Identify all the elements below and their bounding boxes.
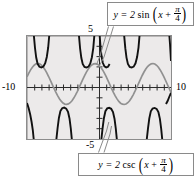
equation-sine-fraction: π 4 xyxy=(174,5,181,23)
x-axis-max-label: 10 xyxy=(176,82,186,92)
y-axis-max-label: 5 xyxy=(88,24,93,34)
x-axis-min-label: -10 xyxy=(2,82,15,92)
callout-sine-equation: y = 2 sin ( x + π 4 ) xyxy=(107,2,194,26)
plot-vector-layer xyxy=(0,0,196,178)
callout-cosecant-equation: y = 2 csc ( x + π 4 ) xyxy=(78,153,194,176)
equation-cosecant-operator: + xyxy=(151,159,157,170)
equation-sine: y = 2 sin ( x + π 4 ) xyxy=(113,5,187,23)
y-axis-min-label: -5 xyxy=(86,140,94,150)
equation-sine-denominator: 4 xyxy=(175,14,180,23)
equation-sine-paren-open: ( xyxy=(153,8,157,20)
equation-cosecant-variable: x xyxy=(144,159,149,170)
equation-sine-numerator: π xyxy=(175,5,180,13)
leader-line-cosecant xyxy=(99,122,112,153)
equation-sine-lhs: y = 2 xyxy=(113,9,135,20)
equation-cosecant-fraction: π 4 xyxy=(160,156,167,174)
equation-sine-paren-close: ) xyxy=(182,8,186,20)
figure-graph-sine-cosecant: -10 10 5 -5 y = 2 sin ( x + π 4 ) y = 2 xyxy=(0,0,196,178)
equation-sine-function: sin xyxy=(138,9,150,20)
equation-cosecant: y = 2 csc ( x + π 4 ) xyxy=(98,156,173,174)
equation-cosecant-function: csc xyxy=(123,159,136,170)
equation-cosecant-denominator: 4 xyxy=(161,165,166,174)
equation-sine-variable: x xyxy=(158,9,163,20)
equation-cosecant-paren-close: ) xyxy=(168,159,172,171)
equation-cosecant-lhs: y = 2 xyxy=(98,159,120,170)
equation-sine-operator: + xyxy=(165,9,171,20)
equation-cosecant-numerator: π xyxy=(161,156,166,164)
equation-cosecant-paren-open: ( xyxy=(139,159,143,171)
